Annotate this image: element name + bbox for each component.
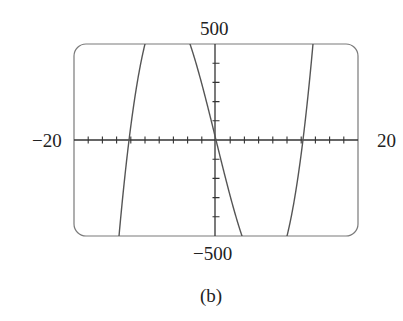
y-min-label: −500: [193, 244, 232, 263]
x-min-label: −20: [32, 131, 62, 150]
graph-window: [0, 0, 403, 321]
y-max-label: 500: [200, 19, 229, 38]
figure-caption: (b): [200, 286, 222, 305]
x-max-label: 20: [377, 131, 396, 150]
